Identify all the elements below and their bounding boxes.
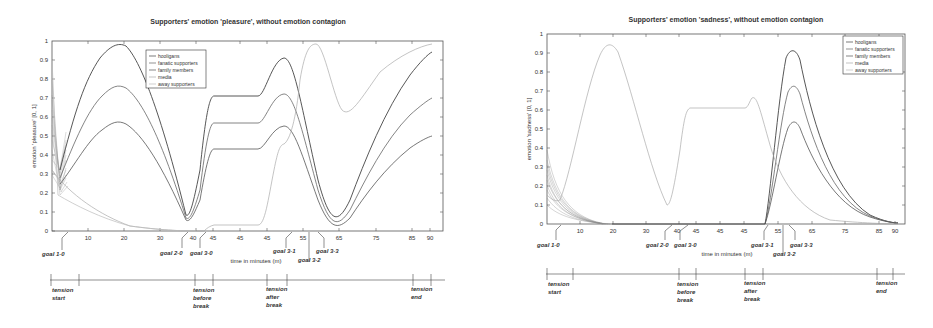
initial-spread [547,150,612,224]
svg-text:0.4: 0.4 [535,145,544,151]
svg-text:45: 45 [693,228,700,234]
legend-item: family members [855,53,891,59]
tension-timeline [50,274,445,286]
svg-text:0.3: 0.3 [535,164,544,170]
series-family-members [765,122,898,224]
svg-text:75: 75 [373,235,380,241]
x-axis-label: time in minutes (m) [701,251,752,257]
svg-text:goal 3-1: goal 3-1 [272,248,296,254]
x-axis-label: time in minutes (m) [230,258,281,264]
chart-title: Supporters' emotion 'pleasure', without … [150,18,346,26]
svg-text:goal 2-0: goal 2-0 [645,242,669,248]
tension-labels: tension start tension before break tensi… [548,280,898,303]
series-hooligans [612,51,898,224]
svg-text:end: end [411,294,422,300]
svg-text:55: 55 [775,228,782,234]
svg-text:goal 3-3: goal 3-3 [789,242,813,248]
series-hooligans [60,45,432,217]
legend-item: fanatic supporters [855,46,895,52]
legend-item: fanatic supporters [158,60,198,66]
x-tick-labels: 10 20 30 40 45 45 45 55 65 75 85 90 [85,235,434,241]
svg-text:0.6: 0.6 [535,107,544,113]
legend-item: away supporters [158,81,195,87]
svg-text:0.1: 0.1 [535,202,544,208]
svg-text:90: 90 [892,228,899,234]
svg-text:before: before [677,289,696,295]
legend: hooligans fanatic supporters family memb… [843,36,903,74]
legend-item: family members [158,67,194,73]
legend-item: hooligans [158,53,180,59]
svg-text:0: 0 [540,221,544,227]
svg-text:tension: tension [677,281,699,287]
svg-text:0.1: 0.1 [40,209,49,215]
legend-item: media [158,74,172,80]
y-axis [547,53,905,205]
series-fanatic-supporters [60,86,432,222]
svg-text:break: break [677,297,694,303]
svg-text:tension: tension [411,286,433,292]
svg-text:break: break [193,303,210,309]
svg-text:tension: tension [876,280,898,286]
svg-text:45: 45 [210,235,217,241]
svg-text:goal 2-0: goal 2-0 [159,250,183,256]
chart-title: Supporters' emotion 'sadness', without e… [629,16,824,24]
svg-text:30: 30 [643,228,650,234]
svg-text:75: 75 [842,228,849,234]
goal-labels: goal 1-0 goal 2-0 goal 3-0 goal 3-1 goal… [536,242,813,257]
y-axis-label: emotion 'pleasure' [0, 1] [31,104,37,168]
legend-item: media [855,60,869,66]
svg-text:40: 40 [190,235,197,241]
svg-text:85: 85 [876,228,883,234]
svg-text:tension: tension [193,287,215,293]
x-tick-labels: 10 20 30 40 45 45 45 55 65 75 85 90 [577,228,899,234]
svg-text:1: 1 [540,31,544,37]
tension-timeline [546,268,905,280]
svg-text:45: 45 [237,235,244,241]
svg-text:0.2: 0.2 [40,190,49,196]
svg-text:start: start [548,289,562,295]
svg-text:tension: tension [548,281,570,287]
svg-text:55: 55 [300,235,307,241]
svg-text:0.7: 0.7 [535,88,544,94]
sadness-chart: Supporters' emotion 'sadness', without e… [526,16,905,303]
svg-text:goal 3-0: goal 3-0 [673,242,697,248]
svg-text:goal 3-1: goal 3-1 [750,242,774,248]
svg-text:after: after [744,288,758,294]
y-axis-label: emotion 'sadness' [0, 1] [526,97,532,160]
legend-item: hooligans [855,39,877,45]
goal-labels: goal 1-0 goal 2-0 goal 3-0 goal 3-1 goal… [41,248,339,263]
svg-text:after: after [266,294,280,300]
svg-text:0.6: 0.6 [40,114,49,120]
svg-text:0.5: 0.5 [535,126,544,132]
legend: hooligans fanatic supporters family memb… [146,50,206,88]
svg-text:tension: tension [744,280,766,286]
series-media [52,44,432,231]
svg-text:0.5: 0.5 [40,133,49,139]
series-lines [52,44,432,231]
svg-text:65: 65 [809,228,816,234]
svg-text:break: break [266,302,283,308]
y-tick-labels: 0 0.1 0.2 0.3 0.4 0.5 0.6 0.7 0.8 0.9 1 [535,31,544,227]
svg-text:0.3: 0.3 [40,171,49,177]
series-fanatic-supporters [765,86,898,224]
svg-text:0.7: 0.7 [40,95,49,101]
svg-text:45: 45 [717,228,724,234]
svg-text:30: 30 [157,235,164,241]
pleasure-chart: Supporters' emotion 'pleasure', without … [31,18,445,309]
svg-text:goal 3-2: goal 3-2 [772,251,796,257]
tension-labels: tension start tension before break tensi… [52,286,433,309]
legend-item: away supporters [855,67,892,73]
svg-text:20: 20 [121,235,128,241]
svg-text:20: 20 [610,228,617,234]
plot-area [52,41,443,231]
svg-text:90: 90 [427,235,434,241]
svg-text:10: 10 [85,235,92,241]
svg-text:0.9: 0.9 [40,57,49,63]
y-tick-labels: 0 0.1 0.2 0.3 0.4 0.5 0.6 0.7 0.8 0.9 1 [40,38,49,234]
svg-text:0.9: 0.9 [535,50,544,56]
svg-text:before: before [193,295,212,301]
svg-text:1: 1 [45,38,49,44]
svg-text:65: 65 [336,235,343,241]
svg-text:45: 45 [264,235,271,241]
series-family-members [60,122,432,225]
